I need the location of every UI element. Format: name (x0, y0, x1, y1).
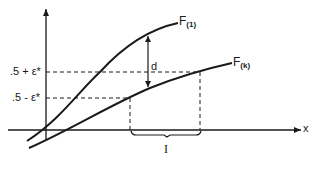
x-axis-label: x (303, 123, 309, 134)
diagram-graphics (0, 0, 313, 185)
curve-f1-label: F(1) (179, 15, 196, 29)
lower-level-label: .5 - ε* (12, 92, 40, 103)
upper-level-label: .5 + ε* (10, 66, 41, 77)
curve-f1 (27, 23, 178, 141)
distance-d-label: d (151, 61, 157, 72)
diagram-canvas: .5 + ε* .5 - ε* F(1) F(k) d I x (0, 0, 313, 185)
curve-fk-label: F(k) (233, 56, 250, 70)
interval-label: I (164, 143, 168, 155)
interval-bracket (131, 131, 201, 137)
